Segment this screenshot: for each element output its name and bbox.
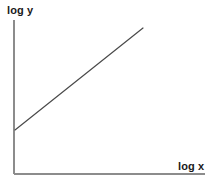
series-group (15, 28, 143, 130)
data-line-power-law-trend (15, 28, 143, 130)
y-axis-label: log y (7, 4, 33, 16)
plot-canvas (0, 0, 219, 184)
axes-group (14, 20, 205, 174)
x-axis-label: log x (178, 160, 204, 172)
chart-figure: log y log x (0, 0, 219, 184)
